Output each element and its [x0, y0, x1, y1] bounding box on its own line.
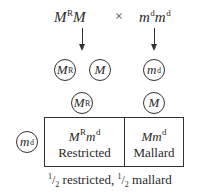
result-label: mallard [132, 172, 172, 187]
allele-base: m [155, 9, 166, 25]
fraction-denominator: 2 [125, 180, 129, 189]
allele-superscript: d [157, 66, 161, 75]
gamete-circle: MR [54, 59, 76, 81]
column-header-circle: MR [71, 92, 93, 114]
fraction-denominator: 2 [55, 180, 59, 189]
parent1-genotype: MRM [54, 8, 86, 26]
gamete-circle: M [89, 59, 111, 81]
cell-phenotype: Mallard [133, 145, 174, 161]
allele-base: M [149, 95, 160, 111]
cell-phenotype: Restricted [58, 145, 111, 161]
allele-base: m [152, 129, 161, 144]
allele-base: M [73, 9, 86, 25]
gamete-circle: md [143, 59, 165, 81]
column-header-circle: M [143, 92, 165, 114]
fraction-numerator: 1 [117, 172, 121, 181]
allele-base: M [141, 129, 152, 144]
punnett-square: MRmd Restricted Mmd Mallard [44, 117, 184, 167]
allele-superscript: d [162, 127, 167, 137]
allele-superscript: d [96, 127, 101, 137]
row-header-circle: md [16, 131, 38, 153]
allele-base: m [147, 62, 156, 78]
cross-operator: × [115, 9, 123, 25]
result-label: restricted, [63, 172, 115, 187]
allele-superscript: R [85, 99, 90, 108]
fraction: 1/2 [117, 173, 128, 187]
allele-base: m [86, 129, 95, 144]
allele-superscript: d [30, 138, 34, 147]
result-summary: 1/2 restricted, 1/2 mallard [48, 172, 172, 189]
punnett-cell: Mmd Mallard [125, 118, 183, 166]
parent2-genotype: mdmd [139, 8, 171, 26]
allele-base: M [74, 95, 85, 111]
allele-base: M [95, 62, 106, 78]
cell-genotype: Mmd [141, 124, 166, 145]
allele-base: M [69, 129, 80, 144]
fraction: 1/2 [48, 173, 59, 187]
allele-superscript: d [166, 8, 171, 18]
allele-superscript: R [68, 66, 73, 75]
allele-base: m [20, 134, 29, 150]
allele-base: M [57, 62, 68, 78]
allele-base: m [139, 9, 150, 25]
allele-base: M [54, 9, 67, 25]
fraction-numerator: 1 [48, 172, 52, 181]
punnett-cell: MRmd Restricted [45, 118, 125, 166]
cell-genotype: MRmd [69, 124, 101, 145]
